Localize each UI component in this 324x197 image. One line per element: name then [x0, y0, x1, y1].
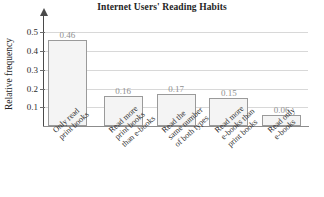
y-axis-tick-mark — [40, 51, 45, 52]
y-axis-tick-label: 0.1 — [27, 107, 38, 108]
bar-value-label: 0.16 — [115, 86, 131, 96]
y-axis-tick-mark — [40, 32, 45, 33]
bar-value-label: 0.15 — [221, 88, 237, 98]
bar-value-label: 0.46 — [60, 30, 76, 40]
chart-title: Internet Users' Reading Habits — [0, 2, 324, 12]
y-axis-tick-label: 0.4 — [27, 51, 38, 52]
y-axis-tick-mark — [40, 107, 45, 108]
y-axis-tick-mark — [40, 70, 45, 71]
bar-value-label: 0.17 — [168, 84, 184, 94]
y-axis-tick-mark — [40, 89, 45, 90]
bar-chart: Internet Users' Reading Habits Relative … — [0, 0, 324, 197]
y-axis-title-text: Relative frequency — [4, 38, 14, 110]
y-axis-arrow-icon — [40, 8, 48, 16]
y-axis-tick-label: 0.5 — [27, 32, 38, 33]
y-axis-tick-label: 0.3 — [27, 70, 38, 71]
y-axis-title: Relative frequency — [2, 24, 16, 124]
y-axis-tick-label: 0.2 — [27, 89, 38, 90]
gridline — [44, 32, 308, 33]
